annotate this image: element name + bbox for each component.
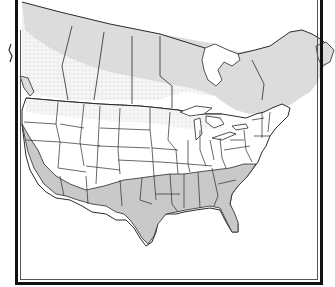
map-figure: Outline map of Canada and the contiguous… xyxy=(0,0,335,287)
map-svg xyxy=(0,0,335,287)
